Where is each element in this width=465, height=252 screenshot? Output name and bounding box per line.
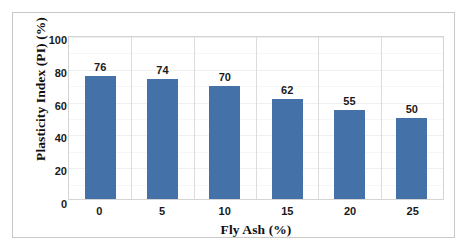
bar-slot: 50 xyxy=(381,37,443,199)
bar-value-label: 50 xyxy=(406,103,418,115)
x-tick-label: 15 xyxy=(256,205,319,217)
bar-value-label: 74 xyxy=(156,64,168,76)
chart-frame: Plasticity Index (PI) (%) 020406080100 7… xyxy=(12,12,455,238)
x-tick-label: 5 xyxy=(131,205,194,217)
bar-slot: 55 xyxy=(318,37,380,199)
y-tick-label: 20 xyxy=(31,165,67,177)
bar-value-label: 62 xyxy=(281,84,293,96)
bar-slot: 76 xyxy=(69,37,131,199)
bar[interactable]: 74 xyxy=(147,79,178,199)
bar[interactable]: 62 xyxy=(272,99,303,199)
x-tick-label: 10 xyxy=(193,205,256,217)
bar[interactable]: 70 xyxy=(209,86,240,199)
bar-value-label: 55 xyxy=(343,95,355,107)
bar[interactable]: 76 xyxy=(85,76,116,199)
bar-slot: 62 xyxy=(256,37,318,199)
y-tick-label: 80 xyxy=(31,67,67,79)
plot-area: 767470625550 xyxy=(68,36,444,200)
y-axis-tick-labels: 020406080100 xyxy=(31,40,67,196)
x-axis-tick-labels: 0510152025 xyxy=(68,205,444,217)
bar-value-label: 70 xyxy=(219,71,231,83)
bar-slot: 74 xyxy=(131,37,193,199)
y-tick-label: 0 xyxy=(31,198,67,210)
x-tick-label: 25 xyxy=(381,205,444,217)
bar-value-label: 76 xyxy=(94,61,106,73)
y-tick-label: 40 xyxy=(31,132,67,144)
bar[interactable]: 50 xyxy=(396,118,427,199)
bar-series: 767470625550 xyxy=(69,37,443,199)
x-tick-label: 20 xyxy=(319,205,382,217)
bar-slot: 70 xyxy=(194,37,256,199)
x-tick-label: 0 xyxy=(68,205,131,217)
x-axis-title: Fly Ash (%) xyxy=(68,222,444,238)
bar[interactable]: 55 xyxy=(334,110,365,199)
y-tick-label: 60 xyxy=(31,100,67,112)
y-tick-label: 100 xyxy=(31,34,67,46)
